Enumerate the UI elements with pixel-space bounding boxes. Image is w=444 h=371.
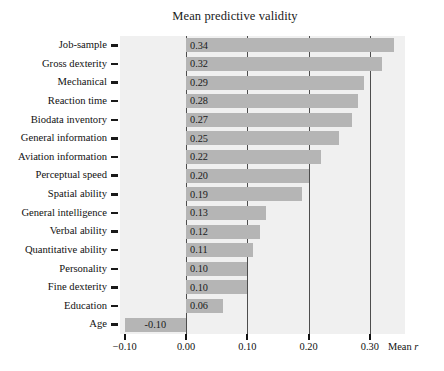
category-label: Biodata inventory: [31, 111, 107, 130]
bar[interactable]: [186, 94, 358, 108]
category-axis-row: Fine dexterity: [0, 278, 120, 297]
category-tick-mark: [111, 156, 118, 159]
bar-row[interactable]: 0.29: [120, 73, 405, 92]
bar-value-label: 0.12: [190, 225, 208, 239]
x-tick-mark: [124, 334, 126, 340]
bar[interactable]: [186, 57, 382, 71]
category-axis-row: Spatial ability: [0, 185, 120, 204]
category-tick-mark: [111, 81, 118, 84]
bar-value-label: 0.06: [190, 299, 208, 313]
category-axis-row: Quantitative ability: [0, 241, 120, 260]
x-axis-title-symbol: r: [414, 341, 418, 352]
bar-value-label: 0.25: [190, 132, 208, 146]
category-axis-row: Job-sample: [0, 36, 120, 55]
category-tick-mark: [111, 268, 118, 271]
category-tick-mark: [111, 193, 118, 196]
category-tick-mark: [111, 174, 118, 177]
category-label: Perceptual speed: [36, 166, 107, 185]
x-axis-title: Mean r: [388, 341, 418, 352]
bar-value-label: 0.19: [190, 188, 208, 202]
bar[interactable]: [186, 76, 364, 90]
bar-value-label: 0.22: [190, 150, 208, 164]
chart-figure: Mean predictive validity Job-sampleGross…: [0, 0, 444, 371]
category-label: Aviation information: [18, 148, 107, 167]
bar-value-label: 0.11: [190, 243, 208, 257]
bar-row[interactable]: 0.10: [120, 260, 405, 279]
bar-value-label: -0.10: [145, 318, 166, 332]
bar-row[interactable]: 0.20: [120, 166, 405, 185]
category-axis-row: Education: [0, 297, 120, 316]
bar-row[interactable]: 0.06: [120, 297, 405, 316]
plot-area: 0.340.320.290.280.270.250.220.200.190.13…: [120, 36, 405, 334]
category-axis-row: Aviation information: [0, 148, 120, 167]
x-tick-label: −0.10: [113, 341, 137, 352]
bar-row[interactable]: 0.34: [120, 36, 405, 55]
category-axis-row: Age: [0, 315, 120, 334]
category-label: Personality: [59, 260, 107, 279]
category-tick-mark: [111, 323, 118, 326]
x-tick-label: 0.20: [300, 341, 318, 352]
x-axis-title-prefix: Mean: [388, 341, 414, 352]
bar[interactable]: [186, 131, 339, 145]
category-tick-mark: [111, 305, 118, 308]
bar-row[interactable]: 0.27: [120, 111, 405, 130]
bar-value-label: 0.10: [190, 262, 208, 276]
bar-row[interactable]: 0.11: [120, 241, 405, 260]
category-label: General intelligence: [21, 204, 107, 223]
x-tick-mark: [369, 334, 371, 340]
category-tick-mark: [111, 63, 118, 66]
category-axis-row: Mechanical: [0, 73, 120, 92]
bar-row[interactable]: -0.10: [120, 315, 405, 334]
category-tick-mark: [111, 212, 118, 215]
category-label: Fine dexterity: [48, 278, 107, 297]
category-tick-mark: [111, 249, 118, 252]
x-axis: Mean r −0.100.000.100.200.30: [0, 334, 444, 371]
category-axis-row: Perceptual speed: [0, 166, 120, 185]
category-label: General information: [21, 129, 107, 148]
category-label: Verbal ability: [50, 222, 107, 241]
category-axis-row: Personality: [0, 260, 120, 279]
bar-value-label: 0.20: [190, 169, 208, 183]
category-tick-mark: [111, 44, 118, 47]
category-axis-row: General intelligence: [0, 204, 120, 223]
category-label: Gross dexterity: [42, 55, 107, 74]
bar-row[interactable]: 0.32: [120, 55, 405, 74]
bar-value-label: 0.27: [190, 113, 208, 127]
bar-row[interactable]: 0.19: [120, 185, 405, 204]
category-axis-row: Verbal ability: [0, 222, 120, 241]
category-tick-mark: [111, 286, 118, 289]
category-axis-row: Reaction time: [0, 92, 120, 111]
category-label: Reaction time: [48, 92, 107, 111]
category-axis-row: Biodata inventory: [0, 111, 120, 130]
bar-value-label: 0.10: [190, 281, 208, 295]
bar-value-label: 0.34: [190, 39, 208, 53]
category-label: Job-sample: [59, 36, 107, 55]
bar-row[interactable]: 0.22: [120, 148, 405, 167]
category-label: Spatial ability: [48, 185, 107, 204]
bar-value-label: 0.32: [190, 57, 208, 71]
category-label: Quantitative ability: [25, 241, 107, 260]
bar-row[interactable]: 0.10: [120, 278, 405, 297]
category-tick-mark: [111, 119, 118, 122]
category-tick-mark: [111, 230, 118, 233]
category-tick-mark: [111, 100, 118, 103]
bar-value-label: 0.28: [190, 94, 208, 108]
bar-row[interactable]: 0.13: [120, 204, 405, 223]
category-label: Mechanical: [58, 73, 107, 92]
bar[interactable]: [186, 113, 352, 127]
category-label: Age: [89, 315, 107, 334]
x-tick-label: 0.30: [361, 341, 379, 352]
x-tick-mark: [246, 334, 248, 340]
chart-title: Mean predictive validity: [0, 9, 444, 24]
x-tick-mark: [185, 334, 187, 340]
category-axis-row: Gross dexterity: [0, 55, 120, 74]
bar-row[interactable]: 0.12: [120, 222, 405, 241]
bar-value-label: 0.29: [190, 76, 208, 90]
category-tick-mark: [111, 137, 118, 140]
bar[interactable]: [186, 38, 394, 52]
x-tick-mark: [308, 334, 310, 340]
bar-row[interactable]: 0.28: [120, 92, 405, 111]
bar-value-label: 0.13: [190, 206, 208, 220]
category-axis-row: General information: [0, 129, 120, 148]
bar-row[interactable]: 0.25: [120, 129, 405, 148]
